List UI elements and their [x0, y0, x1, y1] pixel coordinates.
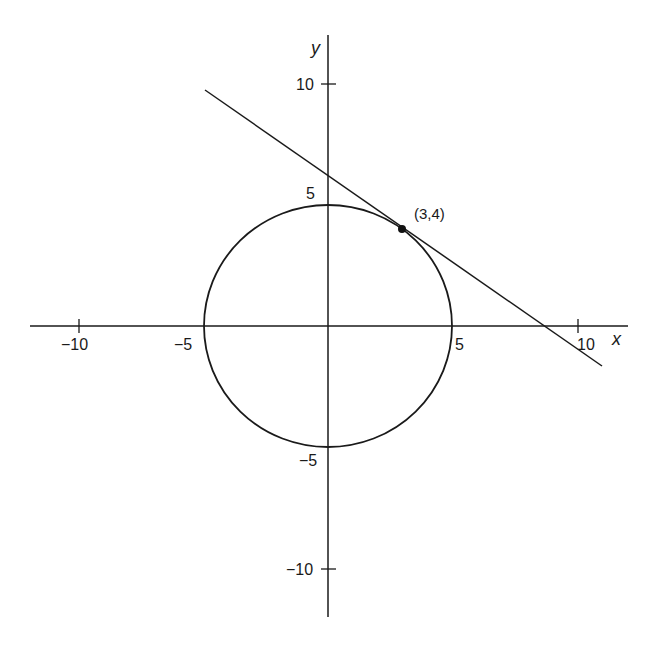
point-label: (3,4) [414, 205, 445, 222]
x-tick-label-10: 10 [577, 336, 595, 353]
y-tick-label-5: 5 [306, 185, 315, 202]
tangent-point [398, 225, 406, 233]
y-axis-label: y [309, 38, 321, 58]
x-axis-label: x [611, 329, 622, 349]
y-tick-label-neg10: −10 [286, 561, 313, 578]
x-tick-label-neg5: −5 [174, 336, 192, 353]
x-tick-label-5: 5 [455, 336, 464, 353]
y-tick-label-10: 10 [296, 76, 314, 93]
y-tick-label-neg5: −5 [299, 452, 317, 469]
figure: (3,4) −10 −5 5 10 x 10 5 −5 −10 y [0, 0, 656, 650]
plot-canvas: (3,4) −10 −5 5 10 x 10 5 −5 −10 y [0, 0, 656, 650]
x-tick-label-neg10: −10 [61, 336, 88, 353]
